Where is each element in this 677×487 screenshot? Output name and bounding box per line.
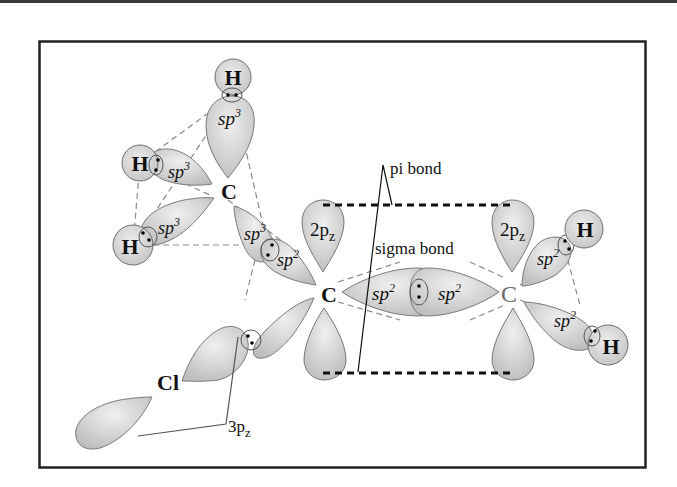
label-c-sp3: C [221,179,237,204]
label-h-right-lower: H [602,334,619,359]
label-h-top: H [224,65,241,90]
pz-lobe-right-bottom [492,308,534,380]
label-c-left: C [321,282,337,307]
pz-lobe-left-bottom [304,308,346,380]
sigma-bond-label: sigma bond [375,239,454,258]
label-cl: Cl [157,370,179,395]
label-h-lower-left: H [121,234,138,259]
label-h-left: H [131,151,148,176]
pi-bond-label: pi bond [390,159,442,178]
pi-bond-leader [358,165,392,372]
orbital-diagram: H H H C C C H H Cl sp3 sp3 sp3 sp3 sp2 s… [0,0,677,487]
label-h-right-upper: H [576,217,593,242]
cl-3pz-bonding-lobe [182,326,261,381]
label-c-right: C [501,281,517,307]
cl-3pz-back-lobe [76,397,152,449]
svg-text:3pz: 3pz [228,417,251,440]
